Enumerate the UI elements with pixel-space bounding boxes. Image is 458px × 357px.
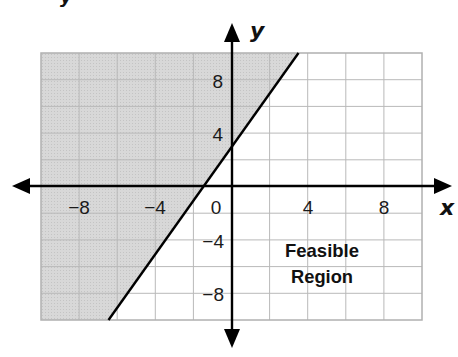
y-axis-down-arrow-icon xyxy=(224,329,240,348)
x-tick-label: −4 xyxy=(144,197,166,218)
feasible-region-label-line1: Feasible xyxy=(285,240,359,261)
y-axis-label: y xyxy=(250,18,266,43)
x-axis-right-arrow-icon xyxy=(434,178,452,194)
y-tick-label: 4 xyxy=(212,124,223,145)
inequality-graph: y y x −8 −4 0 4 8 xyxy=(0,0,458,357)
feasible-region-label-line2: Region xyxy=(291,266,353,287)
x-axis-label: x xyxy=(439,195,455,220)
y-axis-up-arrow-icon xyxy=(224,23,240,42)
y-tick-label: −8 xyxy=(202,284,224,305)
x-tick-label: 8 xyxy=(379,197,390,218)
origin-label: 0 xyxy=(211,197,222,218)
top-text-fragment: y xyxy=(60,0,73,7)
y-tick-label: 8 xyxy=(212,71,223,92)
y-tick-label: −4 xyxy=(202,231,224,252)
x-tick-label: 4 xyxy=(303,197,314,218)
x-tick-label: −8 xyxy=(68,197,90,218)
x-axis-left-arrow-icon xyxy=(12,178,30,194)
